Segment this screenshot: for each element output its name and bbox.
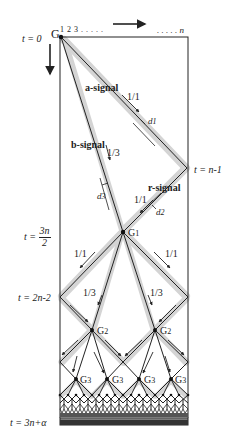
general-g3-label-3: G3 [144, 375, 155, 385]
firing-squad-final-row [60, 404, 188, 425]
g3-sub: 3 [182, 376, 186, 385]
general-g2-right-label: G2 [160, 326, 171, 336]
delay-d3-sub: 3 [102, 192, 106, 201]
speed-r: 1/1 [134, 195, 147, 205]
time-label-t0: t = 0 [22, 34, 42, 44]
g2-sub: 2 [104, 327, 108, 336]
general-g3-label-2: G3 [112, 375, 123, 385]
time-label-t3n2: t = 3n2 [24, 226, 51, 248]
time-label-tn1: t = n-1 [194, 165, 222, 175]
delay-d1-sub: 1 [153, 117, 157, 126]
g3-sub: 3 [119, 376, 123, 385]
time-label-t3na: t = 3n+α [10, 418, 47, 428]
general-g3-label-1: G3 [80, 375, 91, 385]
speed-a: 1/1 [127, 92, 140, 102]
delay-d3: d3 [97, 192, 106, 201]
g1-sub: 1 [135, 229, 139, 238]
general-g3-label-4: G3 [175, 375, 186, 385]
time-label-t3n2-prefix: t = [24, 231, 39, 242]
g3-sub: 3 [151, 376, 155, 385]
speed-g1-inner-right: 1/3 [150, 288, 163, 298]
delay-d2: d2 [156, 208, 165, 217]
delay-d2-sub: 2 [161, 208, 165, 217]
cell-index-labels: 1 2 3 . . . . . [60, 26, 104, 34]
speed-g1-right: 1/1 [165, 249, 178, 259]
fraction-num: 3n [39, 226, 51, 238]
g3-sub: 3 [87, 376, 91, 385]
speed-g1-left: 1/1 [74, 249, 87, 259]
time-label-t2n2: t = 2n-2 [18, 293, 51, 303]
general-g1-label: G1 [128, 228, 139, 238]
fraction: 3n2 [39, 226, 51, 248]
g2-sub: 2 [167, 327, 171, 336]
a-signal-label: a-signal [85, 83, 118, 93]
delay-d1: d1 [148, 117, 157, 126]
speed-g1-inner-left: 1/3 [83, 288, 96, 298]
general-origin-label: G [51, 28, 60, 40]
cell-end-label: . . . . . n [157, 26, 184, 35]
b-signal-label: b-signal [71, 140, 105, 150]
r-signal-label: r-signal [148, 183, 180, 193]
signal-lines [60, 37, 188, 409]
speed-b: 1/3 [107, 148, 120, 158]
general-g2-left-label: G2 [97, 326, 108, 336]
fraction-den: 2 [39, 238, 51, 249]
